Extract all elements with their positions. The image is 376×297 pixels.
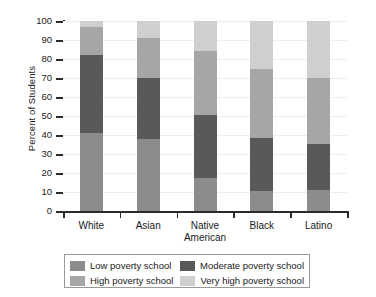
legend-swatch-moderate-poverty-school xyxy=(180,261,195,271)
bar-segment[interactable] xyxy=(137,78,160,139)
y-axis-tick-label: 70 xyxy=(0,73,52,83)
x-axis-tick xyxy=(347,211,349,218)
bar-segment[interactable] xyxy=(137,38,160,78)
legend-item-low-poverty-school[interactable]: Low poverty school xyxy=(70,258,180,273)
bar-segment[interactable] xyxy=(80,133,103,211)
x-axis-category-label: Latino xyxy=(276,220,362,232)
y-axis-tick-label: 80 xyxy=(0,54,52,64)
x-axis-category-label-line: Latino xyxy=(276,220,362,232)
bar-segment[interactable] xyxy=(194,51,217,115)
legend-row: Low poverty school Moderate poverty scho… xyxy=(70,258,304,273)
bar-segment[interactable] xyxy=(80,27,103,56)
bar-segment[interactable] xyxy=(250,21,273,69)
y-axis-tick xyxy=(56,116,63,118)
bar-segment[interactable] xyxy=(194,115,217,178)
bar-segment[interactable] xyxy=(137,21,160,38)
bar-segment[interactable] xyxy=(137,139,160,211)
x-axis-category-label-line: American xyxy=(162,232,248,244)
legend-item-high-poverty-school[interactable]: High poverty school xyxy=(70,273,180,288)
legend-swatch-low-poverty-school xyxy=(70,261,85,271)
y-axis-tick-label: 20 xyxy=(0,168,52,178)
y-axis-tick-label: 90 xyxy=(0,35,52,45)
y-axis-tick-label: 60 xyxy=(0,92,52,102)
y-axis-tick xyxy=(56,173,63,175)
x-axis-tick xyxy=(63,211,65,218)
legend-label-high-poverty-school: High poverty school xyxy=(90,275,173,286)
legend-swatch-high-poverty-school xyxy=(70,276,85,286)
stacked-bar[interactable] xyxy=(250,21,273,211)
stacked-bar[interactable] xyxy=(307,21,330,211)
x-axis-line xyxy=(56,211,348,213)
legend-label-very-high-poverty-school: Very high poverty school xyxy=(200,275,304,286)
y-axis-tick-label: 10 xyxy=(0,187,52,197)
x-axis-tick xyxy=(177,211,179,218)
y-axis-tick-label: 100 xyxy=(0,16,52,26)
bar-segment[interactable] xyxy=(250,69,273,138)
y-axis-tick-label: 50 xyxy=(0,111,52,121)
chart-figure: Percent of Students 01020304050607080901… xyxy=(0,0,376,297)
legend-label-moderate-poverty-school: Moderate poverty school xyxy=(200,260,304,271)
chart-legend: Low poverty school Moderate poverty scho… xyxy=(64,254,310,288)
x-axis-tick xyxy=(233,211,235,218)
legend-row: High poverty school Very high poverty sc… xyxy=(70,273,304,288)
bar-segment[interactable] xyxy=(307,190,330,211)
legend-swatch-very-high-poverty-school xyxy=(180,276,195,286)
y-axis-tick-label: 0 xyxy=(0,206,52,216)
bar-segment[interactable] xyxy=(80,21,103,27)
y-axis-tick-label: 30 xyxy=(0,149,52,159)
y-axis-tick xyxy=(56,135,63,137)
bar-segment[interactable] xyxy=(80,55,103,133)
bar-segment[interactable] xyxy=(194,178,217,211)
y-axis-tick xyxy=(56,211,63,213)
y-axis-tick xyxy=(56,97,63,99)
bar-segment[interactable] xyxy=(194,21,217,51)
bar-segment[interactable] xyxy=(250,191,273,211)
stacked-bar[interactable] xyxy=(137,21,160,211)
y-axis-tick xyxy=(56,59,63,61)
bar-segment[interactable] xyxy=(307,21,330,78)
legend-item-very-high-poverty-school[interactable]: Very high poverty school xyxy=(180,273,304,288)
stacked-bar[interactable] xyxy=(194,21,217,211)
y-axis-tick xyxy=(56,40,63,42)
plot-area xyxy=(63,21,347,211)
bar-segment[interactable] xyxy=(307,78,330,144)
y-axis-tick-label: 40 xyxy=(0,130,52,140)
x-axis-tick xyxy=(290,211,292,218)
legend-item-moderate-poverty-school[interactable]: Moderate poverty school xyxy=(180,258,304,273)
x-axis-tick xyxy=(120,211,122,218)
bar-segment[interactable] xyxy=(250,138,273,191)
y-axis-tick xyxy=(56,192,63,194)
y-axis-tick xyxy=(56,78,63,80)
bar-segment[interactable] xyxy=(307,144,330,191)
y-axis-tick xyxy=(56,21,63,23)
legend-label-low-poverty-school: Low poverty school xyxy=(90,260,171,271)
stacked-bar[interactable] xyxy=(80,21,103,211)
y-axis-tick xyxy=(56,154,63,156)
